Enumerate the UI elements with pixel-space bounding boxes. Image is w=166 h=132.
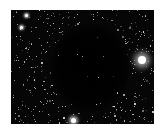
starfield-photo (11, 10, 154, 124)
bright-star (25, 14, 28, 17)
bright-star (138, 56, 146, 64)
bright-star (71, 118, 76, 123)
dark-nebula (51, 24, 129, 112)
bright-star (20, 26, 23, 29)
